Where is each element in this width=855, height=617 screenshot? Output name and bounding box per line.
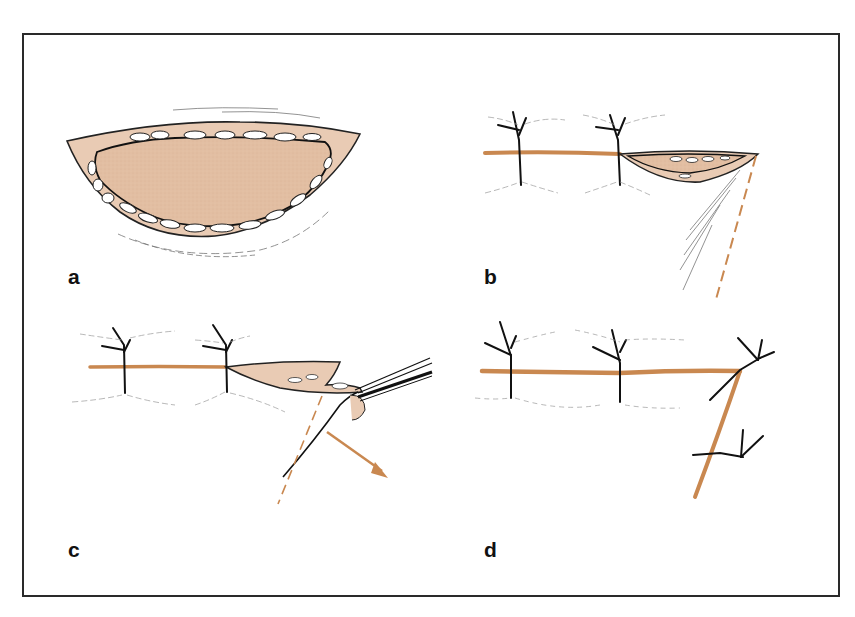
panel-c-flap-elevation [72, 325, 432, 504]
panel-label-c: c [68, 538, 80, 561]
surgical-illustration: a [0, 0, 855, 617]
panel-label-d: d [484, 538, 497, 561]
panel-b-partial-closure [485, 112, 758, 303]
panel-label-a: a [68, 265, 80, 288]
panel-d-complete-closure [475, 322, 774, 497]
panel-a-wound [67, 108, 360, 257]
panel-label-b: b [484, 265, 497, 288]
